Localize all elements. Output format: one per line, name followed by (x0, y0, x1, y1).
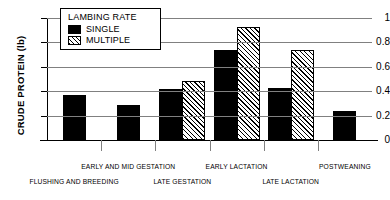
hatched-swatch (68, 36, 81, 45)
x-axis-tick (264, 140, 265, 151)
legend: LAMBING RATE SINGLEMULTIPLE (60, 8, 161, 50)
bar-single-4 (268, 88, 291, 140)
x-axis-label-4: LATE LACTATION (262, 178, 319, 185)
y-tick-mark (41, 140, 47, 141)
legend-title: LAMBING RATE (68, 12, 155, 22)
x-axis-tick (101, 140, 102, 151)
bar-single-1 (117, 105, 140, 140)
x-axis-label-3: EARLY LACTATION (206, 163, 268, 170)
bar-single-3 (214, 50, 237, 140)
legend-entry-single: SINGLE (68, 24, 155, 34)
x-axis-label-0: FLUSHING AND BREEDING (29, 178, 118, 185)
x-axis-tick (318, 140, 319, 151)
legend-entries: SINGLEMULTIPLE (68, 24, 155, 45)
bar-chart: CRUDE PROTEIN (lb) 00.20.40.60.81 FLUSHI… (0, 0, 390, 200)
gridline (47, 116, 372, 117)
bar-multiple-4 (291, 50, 314, 140)
y-axis-title: CRUDE PROTEIN (lb) (15, 11, 26, 161)
gridline (47, 91, 372, 92)
bar-single-0 (63, 95, 86, 140)
x-axis-label-5: POSTWEANING (319, 163, 371, 170)
bar-single-2 (159, 89, 182, 140)
solid-black-swatch (68, 25, 81, 34)
gridline (47, 67, 372, 68)
legend-entry-label: SINGLE (86, 24, 120, 34)
x-axis-tick (155, 140, 156, 151)
x-axis-tick (210, 140, 211, 151)
legend-entry-multiple: MULTIPLE (68, 35, 155, 45)
legend-entry-label: MULTIPLE (86, 35, 130, 45)
x-axis-label-2: LATE GESTATION (153, 178, 211, 185)
bar-multiple-3 (237, 27, 260, 140)
x-axis-label-1: EARLY AND MID GESTATION (81, 163, 175, 170)
